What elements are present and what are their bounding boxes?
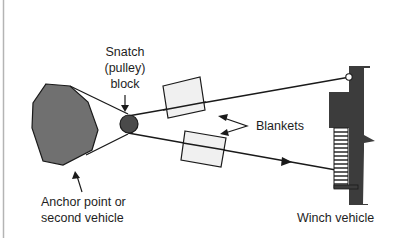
snatch-block-label-line1: Snatch (100, 44, 150, 60)
snatch-block-label: Snatch (pulley) block (100, 44, 150, 92)
winch-vehicle-icon (329, 66, 375, 205)
winch-vehicle-label: Winch vehicle (297, 210, 374, 226)
anchor-label-line1: Anchor point or (41, 194, 126, 210)
anchor-label: Anchor point or second vehicle (41, 194, 126, 226)
blankets-arrow-lower-icon (220, 129, 229, 136)
anchor-arrow-icon (72, 171, 80, 179)
return-rope (128, 77, 350, 116)
anchor-pointer-line (77, 176, 82, 192)
snatch-block-pulley-icon (120, 115, 138, 133)
anchor-octagon-icon (32, 84, 98, 165)
snatch-block-label-line2: (pulley) (100, 60, 150, 76)
tow-hook-icon (346, 74, 352, 80)
anchor-label-line2: second vehicle (41, 210, 126, 226)
rope-direction-arrow-icon (281, 157, 292, 166)
winch-rigging-diagram: Snatch (pulley) block Blankets Anchor po… (0, 0, 402, 238)
blankets-label: Blankets (256, 118, 304, 134)
snatch-block-label-line3: block (100, 76, 150, 92)
winch-rope (128, 133, 336, 170)
blanket-upper (163, 77, 205, 118)
blankets-arrow-upper-icon (218, 114, 228, 121)
